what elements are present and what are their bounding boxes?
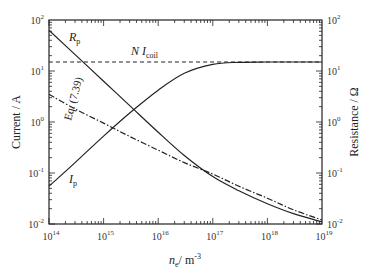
tick-label: 100 [31, 115, 45, 128]
tick-label: 1014 [43, 229, 61, 242]
annotation-eq: Eq. (7.39) [61, 75, 85, 121]
tick-label: 1019 [316, 229, 334, 242]
tick-label: 102 [31, 13, 45, 26]
plot-frame [49, 20, 322, 224]
tick-label: 10-2 [28, 217, 44, 230]
minor-ticks [49, 20, 322, 224]
y-axis-title-left: Current / A [9, 95, 23, 149]
tick-label: 10-2 [327, 217, 343, 230]
y-axis-title-right: Resistance / Ω [347, 87, 361, 157]
y-tick-labels-right: 10-210-1100101102 [327, 13, 343, 230]
tick-label: 102 [327, 13, 341, 26]
x-axis-title: ne/ m-3 [169, 252, 201, 269]
annotation-ip: Ip [68, 172, 77, 188]
annotation-ni-coil: N Icoil [130, 44, 159, 60]
series-i-p [49, 62, 322, 186]
tick-label: 101 [31, 64, 45, 77]
tick-label: 100 [327, 115, 341, 128]
y-tick-labels-left: 10-210-1100101102 [28, 13, 44, 230]
annotation-rp: Rp [68, 30, 80, 46]
tick-label: 10-1 [327, 166, 343, 179]
x-tick-labels: 101410151016101710181019 [43, 229, 334, 242]
series-r-p [49, 30, 322, 222]
tick-label: 1018 [261, 229, 279, 242]
curves [49, 30, 322, 222]
tick-label: 1017 [206, 229, 224, 242]
tick-label: 1015 [97, 229, 115, 242]
tick-label: 10-1 [28, 166, 44, 179]
tick-label: 1016 [152, 229, 170, 242]
chart: 101410151016101710181019 10-210-11001011… [0, 0, 372, 275]
tick-label: 101 [327, 64, 341, 77]
